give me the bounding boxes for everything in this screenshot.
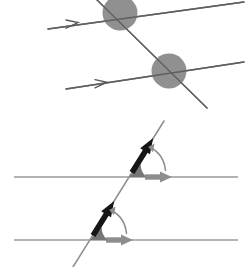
angle-annotation-lower [90,201,133,246]
rotation-arrow-lower [109,207,126,234]
parallel-arrowhead-icon-1 [66,20,78,28]
top-panel-group [48,0,244,108]
geometry-figure-svg [0,0,252,267]
direction-arrow-horizontal-lower [106,235,133,246]
rotation-arrow-upper [148,144,165,171]
angle-annotation-upper [129,138,172,183]
direction-arrow-horizontal-upper [145,172,172,183]
direction-arrow-transversal-lower [93,201,114,236]
figure-root: Two parallel lines marked with single ar… [0,0,252,267]
bottom-panel-group [14,121,238,267]
top-parallel-line-1-overlay [48,2,244,29]
direction-arrow-transversal-upper [132,138,153,173]
top-intersection-disk-1 [103,0,138,31]
